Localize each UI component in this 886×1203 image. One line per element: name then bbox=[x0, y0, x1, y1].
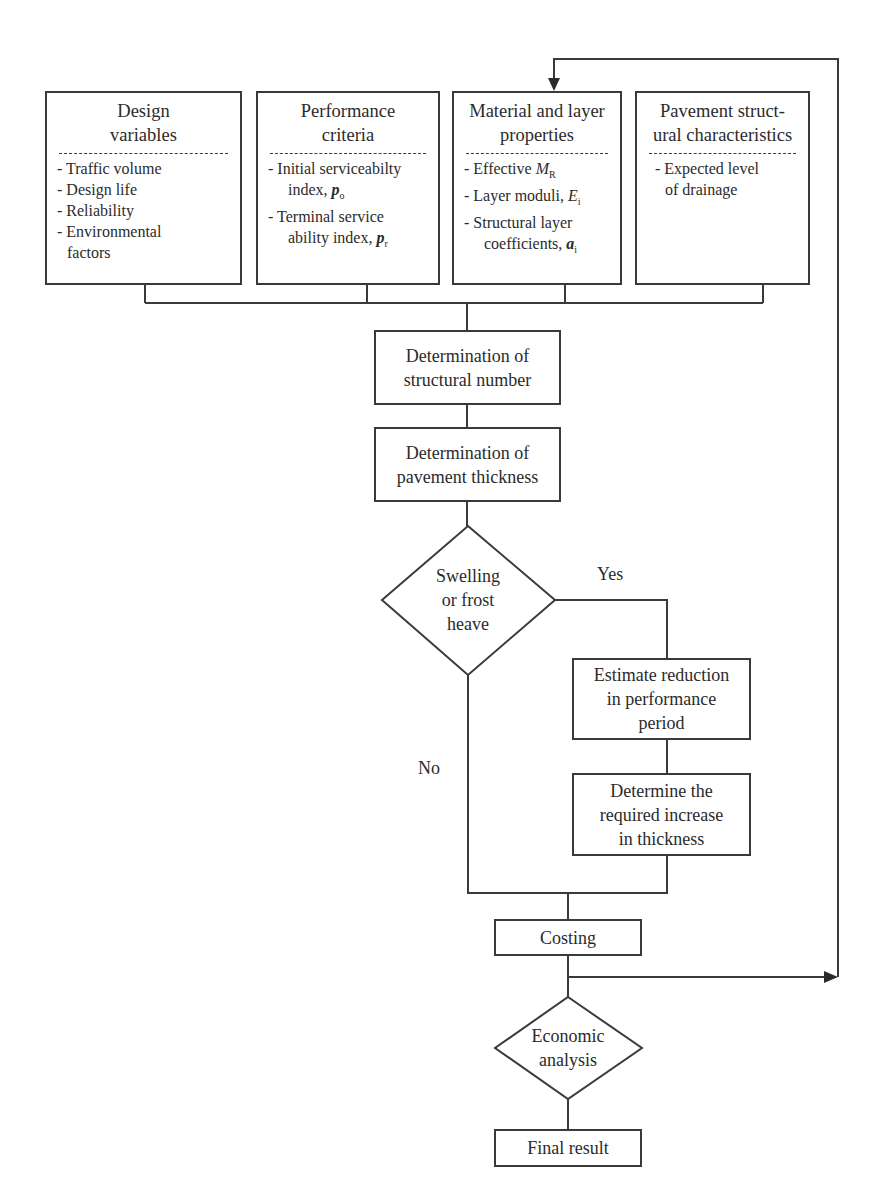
decision-swelling-frost-heave: Swelling or frost heave bbox=[408, 564, 528, 636]
pavement-design-flowchart: Design variables - Traffic volume - Desi… bbox=[0, 0, 886, 1203]
box-title: Design variables bbox=[47, 93, 240, 147]
list-item: - Traffic volume bbox=[57, 158, 234, 179]
process-increase-thickness: Determine the required increase in thick… bbox=[572, 773, 751, 856]
feedback-arrowhead-down bbox=[548, 78, 560, 91]
list-item: - Initial serviceabilty index, po bbox=[268, 158, 432, 206]
feedback-arrowhead-right bbox=[824, 971, 838, 983]
list-item: of drainage bbox=[655, 179, 802, 200]
dashed-divider bbox=[59, 153, 228, 154]
item-list: - Initial serviceabilty index, po - Term… bbox=[258, 158, 438, 254]
edge-label-yes: Yes bbox=[597, 564, 623, 585]
list-item: - Layer moduli, Ei bbox=[464, 185, 614, 212]
list-item: factors bbox=[57, 242, 234, 263]
item-list: - Expected level of drainage bbox=[637, 158, 808, 200]
input-box-pavement-structural-characteristics: Pavement struct- ural characteristics - … bbox=[635, 91, 810, 285]
list-item: - Effective MR bbox=[464, 158, 614, 185]
list-item: - Expected level bbox=[655, 158, 802, 179]
process-costing: Costing bbox=[494, 919, 642, 956]
input-box-design-variables: Design variables - Traffic volume - Desi… bbox=[45, 91, 242, 285]
box-title: Material and layer properties bbox=[454, 93, 620, 147]
dashed-divider bbox=[466, 153, 608, 154]
list-item: - Reliability bbox=[57, 200, 234, 221]
dashed-divider bbox=[270, 153, 426, 154]
item-list: - Traffic volume - Design life - Reliabi… bbox=[47, 158, 240, 263]
list-item: - Design life bbox=[57, 179, 234, 200]
item-list: - Effective MR - Layer moduli, Ei - Stru… bbox=[454, 158, 620, 261]
list-item: - Structural layer coefficients, ai bbox=[464, 212, 614, 260]
box-title: Performance criteria bbox=[258, 93, 438, 147]
box-title: Pavement struct- ural characteristics bbox=[637, 93, 808, 147]
process-pavement-thickness: Determination of pavement thickness bbox=[374, 427, 561, 502]
process-estimate-reduction: Estimate reduction in performance period bbox=[572, 658, 751, 740]
decision-economic-analysis: Economic analysis bbox=[508, 1024, 628, 1072]
input-box-performance-criteria: Performance criteria - Initial serviceab… bbox=[256, 91, 440, 285]
list-item: - Environmental bbox=[57, 221, 234, 242]
process-final-result: Final result bbox=[494, 1129, 642, 1167]
dashed-divider bbox=[649, 153, 796, 154]
process-structural-number: Determination of structural number bbox=[374, 330, 561, 405]
list-item: - Terminal service ability index, pr bbox=[268, 206, 432, 254]
input-box-material-layer-properties: Material and layer properties - Effectiv… bbox=[452, 91, 622, 285]
edge-label-no: No bbox=[418, 758, 440, 779]
